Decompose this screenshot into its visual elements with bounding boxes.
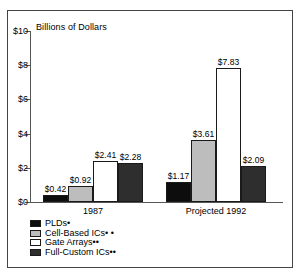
y-tick-label: $0 (18, 197, 28, 207)
legend-footnote-marker: •• (110, 248, 116, 257)
legend-swatch (30, 239, 41, 246)
legend-label: Full-Custom ICs (45, 248, 110, 257)
y-axis-title: Billions of Dollars (36, 22, 107, 32)
bar-value-label: $2.41 (95, 150, 116, 160)
bar (93, 161, 118, 202)
bar (118, 163, 143, 202)
bar-value-label: $2.28 (120, 152, 141, 162)
chart-legend: PLDs•Cell-Based ICs• •Gate Arrays••Full-… (30, 219, 116, 257)
bar (241, 166, 266, 202)
legend-footnote-marker: • • (105, 229, 114, 238)
legend-label: PLDs (45, 219, 67, 228)
y-tick-label: $10 (13, 26, 28, 36)
legend-swatch (30, 220, 41, 227)
category-label: Projected 1992 (186, 206, 247, 216)
legend-footnote-marker: •• (93, 238, 99, 247)
bar-value-label: $3.61 (193, 129, 214, 139)
legend-item: Gate Arrays•• (30, 238, 116, 247)
bar-value-label: $7.83 (218, 57, 239, 67)
bar-value-label: $2.09 (243, 155, 264, 165)
y-tick-label: $2 (18, 163, 28, 173)
bar (43, 195, 68, 202)
category-label: 1987 (83, 206, 103, 216)
legend-swatch (30, 249, 41, 256)
bar (68, 186, 93, 202)
bar-value-label: $0.42 (45, 184, 66, 194)
bar (166, 182, 191, 202)
bar (191, 140, 216, 202)
legend-swatch (30, 230, 41, 237)
y-axis-line (30, 31, 31, 203)
legend-footnote-marker: • (67, 219, 70, 228)
bar-value-label: $0.92 (70, 175, 91, 185)
y-tick-label: $6 (18, 94, 28, 104)
bar-value-label: $1.17 (168, 171, 189, 181)
bar (216, 68, 241, 202)
legend-label: Gate Arrays (45, 238, 93, 247)
chart-figure: Billions of Dollars $0$2$4$6$8$10 $0.42$… (0, 0, 300, 274)
legend-item: PLDs• (30, 219, 116, 228)
legend-item: Full-Custom ICs•• (30, 248, 116, 257)
y-tick-label: $4 (18, 129, 28, 139)
x-axis-line (30, 202, 283, 203)
y-tick-label: $8 (18, 60, 28, 70)
